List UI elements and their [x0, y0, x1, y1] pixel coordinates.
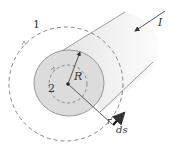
ampere-law-diagram: 1 2 R r ds I — [0, 0, 171, 146]
loop-1-label: 1 — [33, 18, 40, 31]
current-label: I — [157, 16, 163, 29]
loop-2-label: 2 — [48, 82, 55, 95]
loop-1-direction-icon — [22, 41, 26, 45]
radius-r-label: r — [107, 116, 112, 126]
ds-label: ds — [116, 124, 128, 135]
radius-R-label: R — [73, 70, 82, 83]
